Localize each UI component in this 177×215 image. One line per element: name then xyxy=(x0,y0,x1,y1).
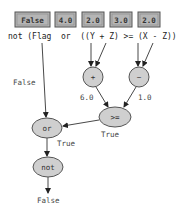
edge-label-flag: False xyxy=(13,78,36,87)
expression-tree-diagram: False 4.0 2.0 3.0 2.0 not (Flag or ((Y +… xyxy=(0,0,177,215)
input-value-x: 3.0 xyxy=(114,16,128,25)
edge-z2-to-minus xyxy=(143,43,153,66)
edge-label-plus: 6.0 xyxy=(80,93,94,102)
input-value-y: 4.0 xyxy=(59,16,73,25)
node-or-label: or xyxy=(42,124,52,133)
edge-flag-to-or xyxy=(42,43,46,117)
input-box-z2: 2.0 xyxy=(138,12,160,27)
node-minus-label: − xyxy=(137,73,142,82)
edge-label-minus: 1.0 xyxy=(138,93,152,102)
input-value-z2: 2.0 xyxy=(142,16,156,25)
result-label: False xyxy=(37,196,60,205)
node-plus-label: + xyxy=(91,73,96,82)
input-value-flag: False xyxy=(21,16,44,25)
expression-text: not (Flag or ((Y + Z) >= (X - Z))) xyxy=(8,32,177,41)
node-gte: >= xyxy=(99,107,131,127)
node-plus: + xyxy=(83,67,103,87)
node-gte-label: >= xyxy=(110,113,120,122)
input-box-flag: False xyxy=(15,12,50,27)
node-not-label: not xyxy=(41,163,55,172)
edge-label-gte: True xyxy=(101,130,120,139)
edge-gte-to-or xyxy=(63,120,99,126)
input-box-y: 4.0 xyxy=(55,12,76,27)
input-box-x: 3.0 xyxy=(110,12,132,27)
input-value-z: 2.0 xyxy=(86,16,100,25)
node-or: or xyxy=(32,118,62,138)
edge-plus-to-gte xyxy=(96,87,108,107)
node-minus: − xyxy=(129,67,149,87)
input-box-z: 2.0 xyxy=(82,12,104,27)
edge-minus-to-gte xyxy=(124,87,136,107)
edge-z-to-plus xyxy=(96,43,106,66)
node-not: not xyxy=(33,157,63,177)
edge-label-or: True xyxy=(57,139,76,148)
